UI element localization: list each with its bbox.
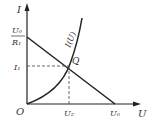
- y-axis-arrow-icon: [25, 3, 30, 11]
- iu-diagram: I U O U₀ R₁ I₁ U₂ U₀ Q I(U): [0, 0, 149, 122]
- i1-label: I₁: [13, 63, 20, 72]
- y-axis-label: I: [16, 4, 22, 15]
- origin-label: O: [16, 106, 24, 117]
- x-axis-arrow-icon: [133, 102, 141, 107]
- y-intercept-denominator: R₁: [11, 38, 21, 47]
- x-axis-label: U: [138, 108, 147, 119]
- u2-label: U₂: [64, 109, 74, 118]
- y-intercept-numerator: U₀: [12, 26, 23, 35]
- x-intercept-label: U₀: [110, 109, 121, 118]
- q-point-label: Q: [72, 56, 80, 66]
